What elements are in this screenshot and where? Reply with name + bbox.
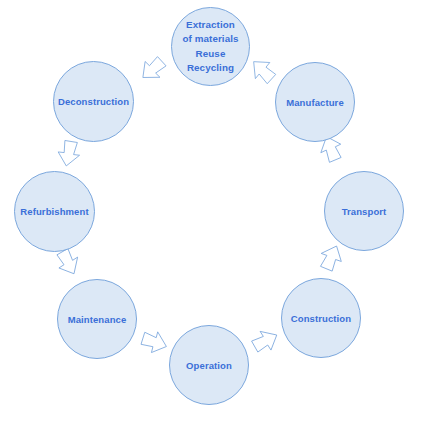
cycle-node-label-transport: Transport	[338, 205, 391, 218]
cycle-node-label-extraction: Extraction of materials Reuse Recycling	[178, 18, 242, 76]
cycle-node-extraction[interactable]: Extraction of materials Reuse Recycling	[171, 7, 250, 86]
cycle-node-deconstruction[interactable]: Deconstruction	[53, 61, 134, 142]
arrow-refurbishment-to-deconstruction	[51, 135, 87, 171]
cycle-node-construction[interactable]: Construction	[281, 278, 361, 358]
arrow-construction-to-operation	[245, 321, 285, 361]
cycle-node-operation[interactable]: Operation	[169, 325, 249, 405]
cycle-node-manufacture[interactable]: Manufacture	[275, 62, 355, 142]
cycle-node-label-manufacture: Manufacture	[282, 96, 348, 109]
arrow-operation-to-maintenance	[135, 323, 173, 361]
cycle-node-label-deconstruction: Deconstruction	[54, 95, 133, 108]
cycle-node-label-maintenance: Maintenance	[64, 313, 131, 326]
cycle-node-refurbishment[interactable]: Refurbishment	[14, 171, 95, 252]
cycle-node-label-construction: Construction	[287, 312, 355, 325]
cycle-node-maintenance[interactable]: Maintenance	[57, 279, 137, 359]
cycle-node-transport[interactable]: Transport	[324, 171, 404, 251]
cycle-node-label-refurbishment: Refurbishment	[16, 205, 92, 218]
lifecycle-cycle-diagram: Extraction of materials Reuse RecyclingM…	[0, 0, 421, 422]
arrow-deconstruction-to-extraction	[132, 48, 174, 90]
cycle-node-label-operation: Operation	[182, 359, 236, 372]
